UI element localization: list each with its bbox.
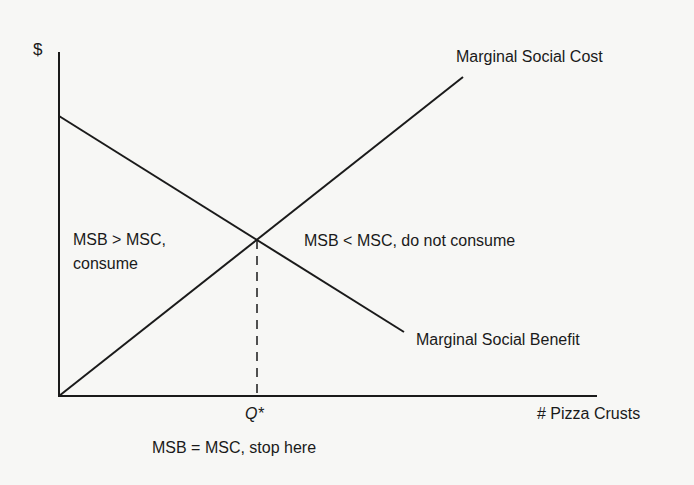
- equilibrium-quantity-label: Q*: [245, 404, 264, 423]
- y-axis-label: $: [33, 40, 42, 59]
- msb-curve: [59, 116, 404, 332]
- region-consume-label-line2: consume: [73, 254, 138, 273]
- region-do-not-consume-label: MSB < MSC, do not consume: [304, 231, 515, 250]
- equilibrium-caption: MSB = MSC, stop here: [152, 438, 316, 457]
- msb-curve-label: Marginal Social Benefit: [416, 330, 580, 349]
- region-consume-label-line1: MSB > MSC,: [73, 230, 166, 249]
- msc-curve-label: Marginal Social Cost: [456, 47, 603, 66]
- x-axis-label: # Pizza Crusts: [537, 404, 640, 423]
